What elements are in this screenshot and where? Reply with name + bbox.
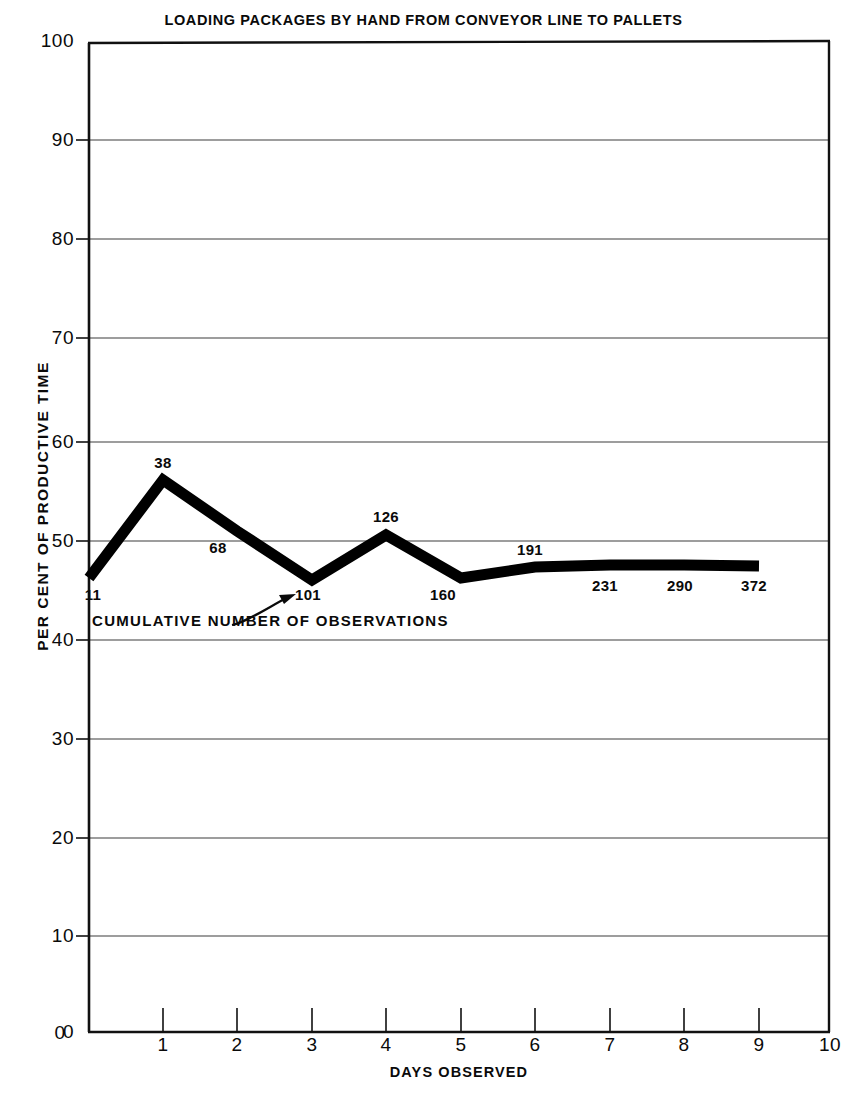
point-label-9: 372 (719, 577, 789, 594)
chart-figure: LOADING PACKAGES BY HAND FROM CONVEYOR L… (0, 0, 847, 1096)
x-tick-7: 7 (590, 1034, 630, 1056)
y-tick-80: 80 (14, 228, 74, 250)
y-tick-40: 40 (14, 629, 74, 651)
point-label-4: 126 (351, 508, 421, 525)
point-label-3: 101 (273, 586, 343, 603)
x-tick-4: 4 (366, 1034, 406, 1056)
annotation-label: CUMULATIVE NUMBER OF OBSERVATIONS (92, 612, 449, 629)
x-tick-5: 5 (441, 1034, 481, 1056)
y-axis-ticks (76, 140, 88, 936)
point-label-7: 231 (570, 577, 640, 594)
plot-canvas (0, 0, 847, 1096)
data-line-series-1 (89, 480, 759, 580)
grid-lines (88, 140, 830, 936)
point-label-2: 68 (183, 539, 253, 556)
point-label-8: 290 (645, 577, 715, 594)
y-tick-70: 70 (14, 327, 74, 349)
point-label-0: 11 (58, 586, 128, 603)
x-tick-8: 8 (664, 1034, 704, 1056)
x-tick-2: 2 (217, 1034, 257, 1056)
x-tick-1: 1 (143, 1034, 183, 1056)
point-label-5: 160 (408, 586, 478, 603)
x-tick-3: 3 (292, 1034, 332, 1056)
plot-frame (88, 41, 830, 1032)
x-tick-10: 10 (810, 1034, 847, 1056)
y-tick-60: 60 (14, 431, 74, 453)
y-tick-100: 100 (14, 30, 74, 52)
y-tick-10: 10 (14, 925, 74, 947)
x-tick-0: 0 (40, 1022, 80, 1044)
point-label-1: 38 (128, 454, 198, 471)
point-label-6: 191 (495, 541, 565, 558)
x-tick-6: 6 (515, 1034, 555, 1056)
y-tick-30: 30 (14, 728, 74, 750)
y-tick-90: 90 (14, 129, 74, 151)
x-axis-ticks (163, 1008, 829, 1032)
x-tick-9: 9 (739, 1034, 779, 1056)
y-tick-50: 50 (14, 530, 74, 552)
y-tick-20: 20 (14, 827, 74, 849)
